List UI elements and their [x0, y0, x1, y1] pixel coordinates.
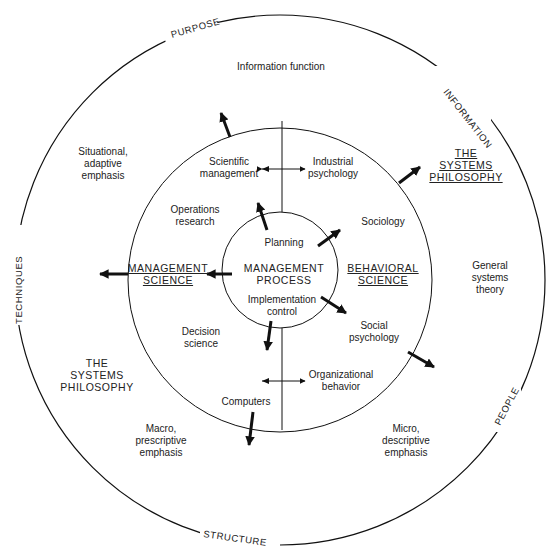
ring-label-techniques: TECHNIQUES	[13, 256, 24, 324]
label-sociology: Sociology	[361, 216, 404, 228]
label-management-process: MANAGEMENT PROCESS	[244, 262, 324, 286]
label-decision-science: Decision science	[182, 326, 220, 350]
label-macro-prescriptive: Macro, prescriptive emphasis	[135, 423, 186, 459]
label-management-science: MANAGEMENT SCIENCE	[128, 262, 208, 286]
label-planning: Planning	[265, 237, 304, 249]
label-behavioral-science: BEHAVIORAL SCIENCE	[347, 262, 418, 286]
label-micro-descriptive: Micro, descriptive emphasis	[382, 423, 430, 459]
systems-philosophy-diagram: PURPOSE INFORMATION TECHNIQUES PEOPLE ST…	[0, 0, 557, 559]
label-operations-research: Operations research	[171, 204, 220, 228]
label-industrial-psychology: Industrial psychology	[308, 156, 358, 180]
label-organizational-behavior: Organizational behavior	[309, 369, 373, 393]
label-computers: Computers	[222, 396, 271, 408]
label-implementation-control: Implementation control	[248, 294, 316, 318]
label-systems-philosophy-right: THE SYSTEMS PHILOSOPHY	[429, 147, 502, 183]
label-situational-adaptive: Situational, adaptive emphasis	[78, 146, 127, 182]
label-scientific-management: Scientific management	[200, 156, 258, 180]
label-systems-philosophy-left: THE SYSTEMS PHILOSOPHY	[60, 357, 133, 393]
label-social-psychology: Social psychology	[349, 320, 399, 344]
label-general-systems-theory: General systems theory	[472, 260, 509, 296]
label-information-function: Information function	[237, 61, 325, 73]
